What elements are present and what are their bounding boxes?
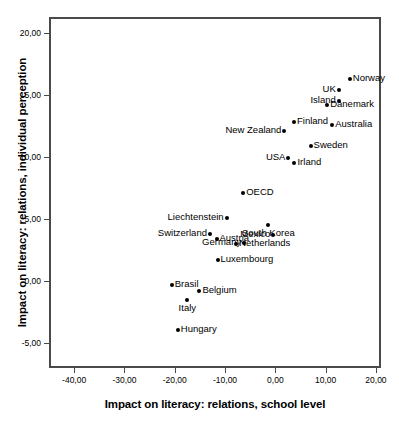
data-point-label: Finland	[297, 116, 328, 126]
x-tick-mark	[326, 368, 327, 373]
x-tick-label: -40,00	[52, 375, 96, 385]
x-axis-title: Impact on literacy: relations, school le…	[49, 398, 381, 410]
data-point-label: Italy	[179, 303, 196, 313]
x-tick-label: -10,00	[203, 375, 247, 385]
x-tick-mark	[225, 368, 226, 373]
x-tick-label: 20,00	[354, 375, 398, 385]
data-point-label: Belgium	[202, 285, 236, 295]
x-tick-label: 10,00	[304, 375, 348, 385]
x-tick-mark	[275, 368, 276, 373]
data-point-label: Irland	[297, 157, 321, 167]
data-point-label: Norway	[353, 73, 385, 83]
data-point-label: USA	[266, 152, 286, 162]
x-tick-mark	[376, 368, 377, 373]
y-tick-mark	[44, 343, 49, 344]
y-tick-mark	[44, 95, 49, 96]
data-point-label: Brasil	[175, 279, 199, 289]
y-axis-title: Impact on literacy: relations, individua…	[16, 17, 32, 368]
x-tick-mark	[124, 368, 125, 373]
plot-area	[49, 17, 381, 368]
data-point-label: Hungary	[181, 324, 217, 334]
data-point-label: Danemark	[330, 99, 374, 109]
y-tick-mark	[44, 33, 49, 34]
data-point-label: Switzerland	[158, 228, 207, 238]
data-point-marker	[216, 258, 220, 262]
x-tick-label: 0,00	[253, 375, 297, 385]
x-tick-mark	[74, 368, 75, 373]
data-point-marker	[337, 88, 341, 92]
data-point-label: UK	[323, 84, 336, 94]
data-point-label: New Zealand	[225, 125, 281, 135]
y-tick-mark	[44, 157, 49, 158]
data-point-marker	[225, 216, 229, 220]
data-point-label: Liechtenstein	[168, 212, 224, 222]
data-point-label: Sweden	[314, 140, 348, 150]
y-tick-mark	[44, 219, 49, 220]
data-point-marker	[309, 144, 313, 148]
data-point-label: Luxembourg	[221, 254, 274, 264]
x-tick-label: -30,00	[102, 375, 146, 385]
data-point-label: OECD	[246, 187, 273, 197]
data-point-label: Australia	[335, 119, 372, 129]
y-tick-mark	[44, 281, 49, 282]
x-tick-label: -20,00	[153, 375, 197, 385]
x-tick-mark	[175, 368, 176, 373]
data-point-marker	[176, 328, 180, 332]
data-point-marker	[170, 283, 174, 287]
scatter-plot-figure: -40,00-30,00-20,00-10,000,0010,0020,0020…	[0, 0, 399, 422]
data-point-marker	[348, 77, 352, 81]
data-point-label: Netherlands	[239, 238, 290, 248]
